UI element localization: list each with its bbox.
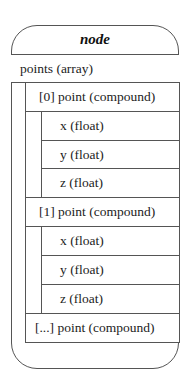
point-0-y-label: y (float) xyxy=(60,147,104,163)
node-title: node xyxy=(11,25,179,55)
point-1-z-label: z (float) xyxy=(60,291,103,307)
points-array-label: points (array) xyxy=(20,61,93,77)
point-1-label: [1] point (compound) xyxy=(39,204,155,220)
point-n-row: [...] point (compound) xyxy=(25,313,180,343)
point-0-row: [0] point (compound) xyxy=(25,82,180,112)
point-n-label: [...] point (compound) xyxy=(35,320,155,336)
points-array-row: points (array) xyxy=(11,54,179,83)
point-0-z-label: z (float) xyxy=(60,175,103,191)
point-0-z-row: z (float) xyxy=(41,168,180,198)
point-1-row: [1] point (compound) xyxy=(25,197,180,227)
point-0-label: [0] point (compound) xyxy=(39,89,155,105)
point-1-y-row: y (float) xyxy=(41,255,180,285)
point-1-z-row: z (float) xyxy=(41,284,180,314)
point-1-x-label: x (float) xyxy=(60,233,104,249)
point-0-x-label: x (float) xyxy=(60,118,104,134)
point-0-y-row: y (float) xyxy=(41,140,180,169)
point-0-x-row: x (float) xyxy=(41,111,180,141)
point-1-x-row: x (float) xyxy=(41,226,180,256)
point-1-y-label: y (float) xyxy=(60,262,104,278)
